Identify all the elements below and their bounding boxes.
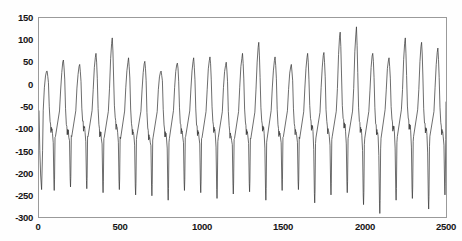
plot-area [38,17,447,218]
y-tick-label: -100 [0,123,33,134]
y-tick-label: 150 [0,12,33,23]
x-tick-label: 1000 [182,221,222,232]
x-tick-label: 1500 [263,221,303,232]
x-tick-label: 500 [100,221,140,232]
clipped-header-text [0,0,462,9]
y-tick-label: -250 [0,190,33,201]
y-tick-label: -50 [0,101,33,112]
y-tick-label: 0 [0,79,33,90]
figure-root: 150 100 50 0 -50 -100 -150 -200 -250 -30… [0,0,462,241]
y-tick-label: -150 [0,146,33,157]
x-tick-label: 2500 [426,221,462,232]
y-tick-label: -200 [0,168,33,179]
signal-trace [39,27,446,214]
y-tick-label: 50 [0,56,33,67]
signal-plot-svg [39,18,446,217]
y-tick-label: 100 [0,34,33,45]
x-tick-label: 0 [18,221,58,232]
x-tick-label: 2000 [345,221,385,232]
